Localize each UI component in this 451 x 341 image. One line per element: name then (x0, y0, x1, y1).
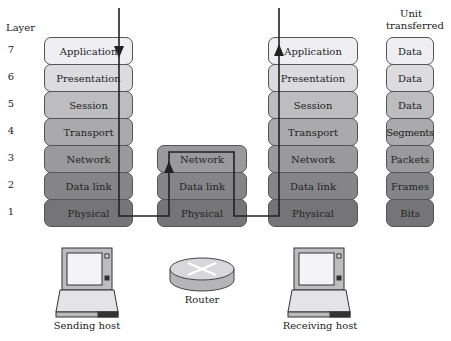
receiving-host-label: Receiving host (272, 320, 368, 331)
laptop-icon (0, 0, 451, 341)
